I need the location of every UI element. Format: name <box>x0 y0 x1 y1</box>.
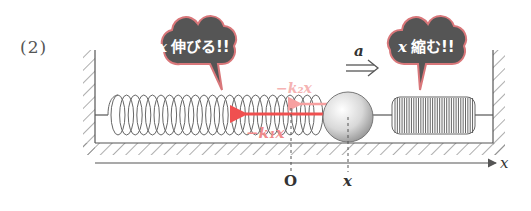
bubble-compress-label: 縮む!! <box>411 38 455 56</box>
bubble-stretch-label: 伸びる!! <box>171 38 230 56</box>
spring2-force-label: −k₂x <box>276 80 312 96</box>
bubble-compress-text: x縮む!! <box>398 35 455 56</box>
bubble-compress-variable: x <box>398 38 407 56</box>
floor <box>83 143 505 155</box>
acceleration-arrow <box>346 60 378 76</box>
bubble-stretch-variable: x <box>158 38 167 56</box>
right-spring <box>372 97 493 134</box>
right-wall <box>493 50 505 155</box>
x-axis-label: x <box>500 154 508 172</box>
acceleration-label: a <box>354 42 364 60</box>
bubble-stretch-text: x伸びる!! <box>158 35 230 56</box>
origin-label: O <box>284 172 297 190</box>
left-wall <box>83 50 95 155</box>
spring-mass-diagram: (2) x伸びる!! x縮む!! a −k₂x −k₁x O x x <box>0 0 531 211</box>
spring1-force-label: −k₁x <box>246 124 284 142</box>
problem-number: (2) <box>20 37 47 57</box>
diagram-canvas <box>0 0 531 211</box>
position-label: x <box>343 172 352 190</box>
